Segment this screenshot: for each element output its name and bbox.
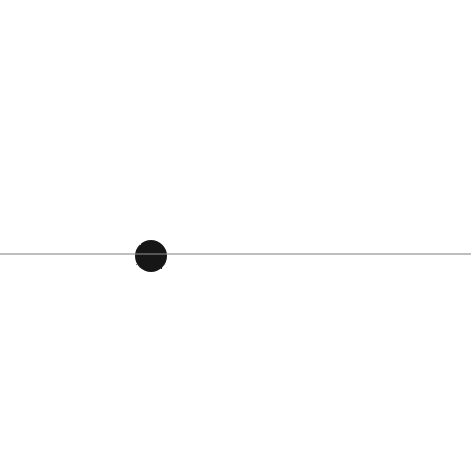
filled-dot-mark bbox=[135, 240, 167, 272]
figure-svg bbox=[0, 0, 471, 464]
drawing-canvas: A white page bearing three thick dark ma… bbox=[0, 0, 471, 464]
